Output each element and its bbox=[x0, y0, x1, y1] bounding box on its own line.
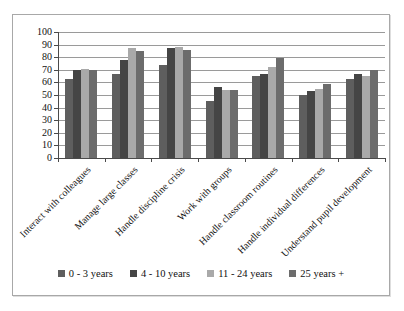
bar-11-24years-cat2 bbox=[175, 47, 183, 158]
legend-marker-icon bbox=[289, 270, 296, 277]
y-axis-line bbox=[58, 32, 59, 158]
bar-25years+-cat4 bbox=[276, 58, 284, 158]
x-axis-category-label: Handle classroom routines bbox=[197, 164, 280, 247]
bar-11-24years-cat3 bbox=[222, 90, 230, 158]
gridline-100 bbox=[58, 32, 385, 33]
bar-4-10years-cat6 bbox=[354, 74, 362, 158]
x-axis-tick bbox=[338, 158, 339, 162]
y-axis-tick-label: 40 bbox=[22, 103, 52, 113]
bar-11-24years-cat0 bbox=[81, 69, 89, 158]
gridline-70 bbox=[58, 70, 385, 71]
x-axis-tick bbox=[385, 158, 386, 162]
bar-0-3years-cat5 bbox=[299, 95, 307, 158]
x-axis-tick bbox=[151, 158, 152, 162]
bar-4-10years-cat4 bbox=[260, 74, 268, 158]
y-axis-tick-label: 60 bbox=[22, 77, 52, 87]
x-axis-tick bbox=[105, 158, 106, 162]
bar-25years+-cat2 bbox=[183, 50, 191, 158]
x-axis-category-label: Understand pupil development bbox=[278, 164, 373, 259]
legend-marker-icon bbox=[58, 270, 65, 277]
bar-4-10years-cat5 bbox=[307, 91, 315, 158]
legend-label: 25 years + bbox=[300, 268, 344, 279]
gridline-90 bbox=[58, 45, 385, 46]
bar-4-10years-cat1 bbox=[120, 60, 128, 158]
plot-area: 0102030405060708090100Interact with coll… bbox=[13, 15, 389, 295]
bar-0-3years-cat4 bbox=[252, 76, 260, 158]
x-axis-tick bbox=[245, 158, 246, 162]
bar-4-10years-cat3 bbox=[214, 87, 222, 158]
y-axis-tick-label: 70 bbox=[22, 65, 52, 75]
y-axis-tick-label: 0 bbox=[22, 153, 52, 163]
y-axis-tick-label: 20 bbox=[22, 128, 52, 138]
bar-11-24years-cat5 bbox=[315, 89, 323, 158]
y-axis-tick-label: 100 bbox=[22, 27, 52, 37]
bar-0-3years-cat6 bbox=[346, 79, 354, 158]
legend-item: 4 - 10 years bbox=[130, 268, 190, 279]
legend-label: 4 - 10 years bbox=[141, 268, 190, 279]
legend-item: 11 - 24 years bbox=[207, 268, 272, 279]
legend: 0 - 3 years4 - 10 years11 - 24 years25 y… bbox=[13, 268, 389, 279]
legend-item: 25 years + bbox=[289, 268, 344, 279]
x-axis-tick bbox=[198, 158, 199, 162]
bar-4-10years-cat0 bbox=[73, 70, 81, 158]
y-axis-tick-label: 30 bbox=[22, 115, 52, 125]
bar-25years+-cat6 bbox=[370, 70, 378, 158]
x-axis-line bbox=[58, 158, 385, 159]
bar-25years+-cat0 bbox=[89, 70, 97, 158]
x-axis-tick bbox=[292, 158, 293, 162]
bar-25years+-cat3 bbox=[230, 90, 238, 158]
bar-0-3years-cat0 bbox=[65, 79, 73, 158]
gridline-80 bbox=[58, 57, 385, 58]
legend-label: 0 - 3 years bbox=[69, 268, 113, 279]
bar-25years+-cat5 bbox=[323, 84, 331, 158]
bar-25years+-cat1 bbox=[136, 51, 144, 158]
y-axis-tick-label: 50 bbox=[22, 90, 52, 100]
x-axis-tick bbox=[58, 158, 59, 162]
bar-4-10years-cat2 bbox=[167, 48, 175, 158]
y-axis-tick-label: 10 bbox=[22, 140, 52, 150]
y-axis-tick-label: 80 bbox=[22, 52, 52, 62]
legend-marker-icon bbox=[130, 270, 137, 277]
legend-label: 11 - 24 years bbox=[218, 268, 272, 279]
bar-11-24years-cat4 bbox=[268, 67, 276, 158]
legend-marker-icon bbox=[207, 270, 214, 277]
chart-frame: 0102030405060708090100Interact with coll… bbox=[12, 14, 390, 296]
x-axis-category-label: Handle individual differences bbox=[235, 164, 327, 256]
bar-0-3years-cat1 bbox=[112, 74, 120, 158]
bar-11-24years-cat6 bbox=[362, 76, 370, 158]
legend-item: 0 - 3 years bbox=[58, 268, 113, 279]
bar-0-3years-cat2 bbox=[159, 65, 167, 158]
bar-0-3years-cat3 bbox=[206, 101, 214, 158]
y-axis-tick-label: 90 bbox=[22, 40, 52, 50]
bar-11-24years-cat1 bbox=[128, 48, 136, 158]
gridline-60 bbox=[58, 82, 385, 83]
